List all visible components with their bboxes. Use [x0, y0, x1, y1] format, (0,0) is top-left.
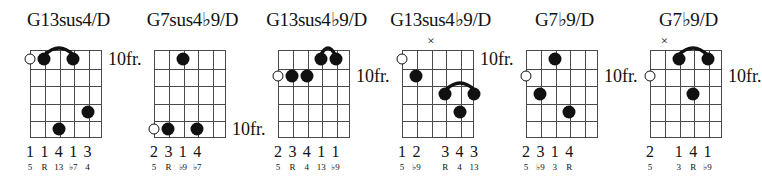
interval-labels-row: 5R13♭74	[0, 163, 137, 173]
finger-number: 3	[84, 144, 92, 160]
fret-line	[155, 121, 225, 122]
interval-labels-row: 5♭9R413	[372, 163, 509, 173]
fret-line	[403, 121, 473, 122]
finger-number: 1	[551, 144, 559, 160]
finger-number: 3	[288, 144, 296, 160]
finger-number: 3	[470, 144, 478, 160]
interval-label: 5	[400, 163, 405, 172]
interval-label: 4	[85, 163, 90, 172]
fret-dot	[453, 105, 466, 118]
fret-dot	[38, 52, 51, 65]
string-line	[89, 51, 90, 137]
string-line	[665, 51, 666, 137]
fret-line	[279, 121, 349, 122]
interval-label: 5	[648, 163, 653, 172]
fret-dot	[162, 123, 175, 136]
chord-diagram-6: G7♭9/D×10fr.214153R♭9	[620, 0, 757, 191]
fret-dot	[687, 88, 700, 101]
finger-number: 1	[69, 144, 77, 160]
interval-label: ♭9	[703, 163, 712, 172]
chord-title: G7♭9/D	[496, 10, 633, 29]
interval-label: R	[566, 163, 572, 172]
finger-numbers-row: 12343	[372, 144, 509, 160]
chord-diagram-5: G7♭9/D10fr.23145♭93R	[496, 0, 633, 191]
fret-line	[279, 86, 349, 87]
chord-title: G13sus4♭9/D	[248, 10, 385, 29]
interval-label: 5	[524, 163, 529, 172]
open-string-marker	[149, 124, 160, 135]
interval-label: 5	[276, 163, 281, 172]
chord-title: G13sus4/D	[0, 10, 137, 29]
fret-dot	[468, 88, 481, 101]
fretboard: ×	[650, 50, 722, 138]
interval-label: ♭9	[179, 163, 188, 172]
string-line	[213, 51, 214, 137]
fret-line	[527, 121, 597, 122]
finger-number: 2	[522, 144, 530, 160]
finger-number: 4	[193, 144, 201, 160]
finger-number: 3	[536, 144, 544, 160]
finger-number: 2	[412, 144, 420, 160]
fret-dot	[439, 88, 452, 101]
fret-line	[155, 86, 225, 87]
finger-number: 1	[675, 144, 683, 160]
fretboard	[154, 50, 226, 138]
interval-labels-row: 5R♭9♭7	[124, 163, 261, 173]
finger-numbers-row: 2314	[496, 144, 633, 160]
chord-title: G7♭9/D	[620, 10, 757, 29]
fret-line	[527, 69, 597, 70]
fret-dot	[410, 70, 423, 83]
chord-diagram-1: G13sus4/D10fr.114135R13♭74	[0, 0, 137, 191]
string-line	[585, 51, 586, 137]
finger-number: 2	[274, 144, 282, 160]
fret-dot	[81, 105, 94, 118]
muted-string-marker: ×	[661, 34, 668, 47]
interval-label: R	[41, 163, 47, 172]
fret-line	[31, 86, 101, 87]
fret-line	[651, 104, 721, 105]
open-string-marker	[645, 71, 656, 82]
fret-line	[155, 104, 225, 105]
chord-title: G13sus4♭9/D	[372, 10, 509, 29]
fret-dot	[52, 123, 65, 136]
fretboard: ×	[402, 50, 474, 138]
fret-line	[651, 121, 721, 122]
open-string-marker	[397, 53, 408, 64]
finger-number: 3	[164, 144, 172, 160]
muted-string-marker: ×	[427, 34, 434, 47]
fret-dot	[176, 52, 189, 65]
fret-line	[403, 86, 473, 87]
finger-number: 3	[441, 144, 449, 160]
interval-label: R	[289, 163, 295, 172]
interval-label: R	[690, 163, 696, 172]
fret-dot	[534, 88, 547, 101]
interval-label: 3	[553, 163, 558, 172]
fret-dot	[672, 52, 685, 65]
finger-number: 2	[150, 144, 158, 160]
finger-number: 1	[704, 144, 712, 160]
interval-label: 13	[317, 163, 326, 172]
interval-label: R	[442, 163, 448, 172]
fretboard	[30, 50, 102, 138]
interval-label: 5	[28, 163, 33, 172]
interval-label: 4	[305, 163, 310, 172]
interval-label: 3	[677, 163, 682, 172]
interval-label: ♭9	[536, 163, 545, 172]
interval-label: 5	[152, 163, 157, 172]
finger-numbers-row: 2141	[620, 144, 757, 160]
chord-diagram-3: G13sus4♭9/D10fr.234115R413♭9	[248, 0, 385, 191]
finger-number: 4	[303, 144, 311, 160]
interval-label: ♭9	[412, 163, 421, 172]
interval-labels-row: 53R♭9	[620, 163, 757, 173]
interval-label: ♭9	[331, 163, 340, 172]
chord-diagram-4: G13sus4♭9/D×10fr.123435♭9R413	[372, 0, 509, 191]
fret-dot	[286, 70, 299, 83]
string-line	[417, 51, 418, 137]
fretboard	[526, 50, 598, 138]
finger-number: 4	[565, 144, 573, 160]
interval-labels-row: 5R413♭9	[248, 163, 385, 173]
fret-dot	[67, 52, 80, 65]
finger-number: 2	[646, 144, 654, 160]
fret-line	[279, 104, 349, 105]
